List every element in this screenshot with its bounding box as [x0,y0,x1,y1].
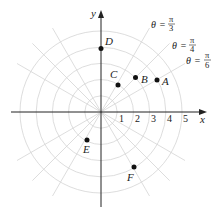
x-tick-3: 3 [151,113,156,124]
angle-label-pi-4: θ = π 4 [172,35,196,54]
x-axis-label: x [199,113,205,125]
point-F [132,165,137,170]
svg-text:3: 3 [169,23,173,33]
point-B [133,75,138,80]
svg-text:=: = [180,40,187,51]
x-tick-4: 4 [167,113,172,124]
point-label-B: B [141,73,148,85]
angle-labels: θ = π 3 θ = π 4 θ = π 6 [151,14,211,70]
point-D [99,46,104,51]
point-label-C: C [110,68,118,80]
polar-diagram: x y 1 2 3 4 5 θ = π 3 θ = π 4 θ = π 6 [0,0,217,214]
grid-ray-150 [17,64,101,113]
x-tick-1: 1 [119,113,124,124]
svg-text:π: π [205,50,210,60]
x-tick-2: 2 [135,113,140,124]
point-C [116,83,121,88]
svg-text:=: = [159,19,166,30]
point-E [85,138,90,143]
y-axis-label: y [90,7,96,19]
y-axis-arrow-icon [98,10,104,18]
grid-ray-225 [32,112,101,181]
point-label-A: A [161,75,169,87]
svg-text:θ: θ [151,19,156,30]
point-label-F: F [126,171,134,183]
point-label-D: D [104,35,113,47]
svg-text:θ: θ [186,55,191,66]
grid-ray-240 [53,112,102,196]
grid-ray-300 [101,112,150,196]
grid-ray-120 [53,28,102,112]
svg-text:6: 6 [205,60,209,70]
grid-ray-330 [101,112,185,161]
point-label-E: E [82,143,90,155]
point-A [155,78,160,83]
svg-text:4: 4 [190,44,195,54]
svg-text:θ: θ [172,40,177,51]
x-tick-5: 5 [183,113,188,124]
angle-label-pi-3: θ = π 3 [151,14,175,33]
svg-text:=: = [194,55,201,66]
grid-ray-135 [32,43,101,112]
